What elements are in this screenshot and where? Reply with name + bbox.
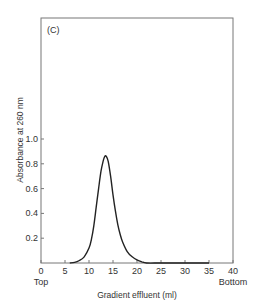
y-tick-label: 0.2 bbox=[25, 233, 38, 243]
x-tick-label: 40 bbox=[228, 266, 238, 276]
y-tick-label: 1.0 bbox=[25, 134, 38, 144]
panel-label: (C) bbox=[47, 25, 60, 35]
absorbance-curve bbox=[70, 156, 209, 263]
y-axis-title: Absorbance at 260 nm bbox=[15, 97, 25, 183]
x-tick-label: 15 bbox=[108, 266, 118, 276]
x-tick-label: 25 bbox=[156, 266, 166, 276]
y-tick-label: 0.6 bbox=[25, 184, 38, 194]
plot-frame bbox=[41, 18, 233, 263]
x-left-end-label: Top bbox=[34, 277, 49, 287]
x-axis-title: Gradient effluent (ml) bbox=[97, 290, 177, 300]
x-tick-label: 20 bbox=[132, 266, 142, 276]
x-tick-label: 30 bbox=[180, 266, 190, 276]
y-tick-label: 0.4 bbox=[25, 208, 38, 218]
x-tick-label: 10 bbox=[84, 266, 94, 276]
x-tick-label: 5 bbox=[62, 266, 67, 276]
y-tick-label: 0.8 bbox=[25, 159, 38, 169]
absorbance-chart: 0.20.40.60.81.0 0510152025303540 (C) Top… bbox=[0, 0, 259, 305]
x-tick-label: 0 bbox=[38, 266, 43, 276]
x-right-end-label: Bottom bbox=[219, 277, 248, 287]
x-tick-label: 35 bbox=[204, 266, 214, 276]
